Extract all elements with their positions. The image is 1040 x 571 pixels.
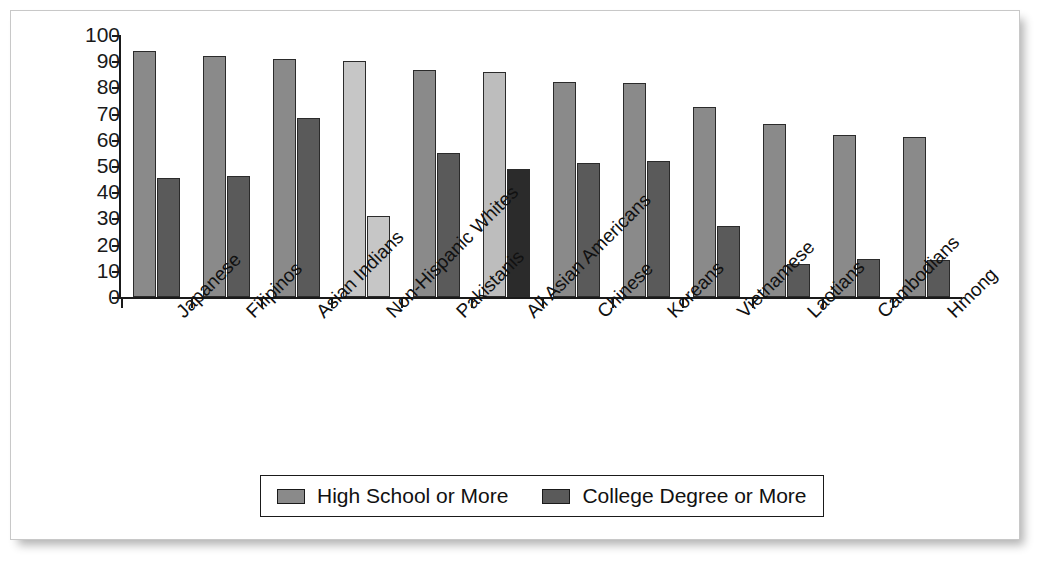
y-axis-tick-mark xyxy=(112,87,120,89)
x-axis-category-label: Vietnamese xyxy=(733,307,749,323)
y-axis-tick-mark xyxy=(112,297,120,299)
x-axis-tick-mark xyxy=(822,299,824,308)
x-axis-tick-mark xyxy=(542,299,544,308)
x-axis-tick-mark xyxy=(612,299,614,308)
y-axis-tick-mark xyxy=(112,140,120,142)
legend-item-college[interactable]: College Degree or More xyxy=(542,484,806,508)
x-axis-category-label: All Asian Americans xyxy=(522,307,538,323)
x-axis-category-label: Hmong xyxy=(943,307,959,323)
bar-high-school-japanese xyxy=(133,51,156,297)
chart-plot-area: 1009080706050403020100 JapaneseFilipinos… xyxy=(11,11,1021,541)
chart-legend: High School or MoreCollege Degree or Mor… xyxy=(260,475,824,517)
x-axis-category-label: Cambodians xyxy=(873,307,889,323)
x-axis-category-label: Pakistanis xyxy=(452,307,468,323)
legend-swatch-icon xyxy=(277,489,305,504)
y-axis-tick-mark xyxy=(112,166,120,168)
y-axis-tick-mark xyxy=(112,245,120,247)
x-axis-tick-mark xyxy=(892,299,894,308)
x-axis-category-label: Non-Hispanic Whites xyxy=(382,307,398,323)
x-axis-category-label: Asian Indians xyxy=(312,307,328,323)
bar-college-japanese xyxy=(157,178,180,297)
bar-college-vietnamese xyxy=(717,226,740,297)
x-axis-tick-mark xyxy=(752,299,754,308)
y-axis-tick-mark xyxy=(112,35,120,37)
legend-label: College Degree or More xyxy=(582,484,806,508)
legend-item-high-school[interactable]: High School or More xyxy=(277,484,508,508)
bar-series-container xyxy=(121,35,962,297)
y-axis-tick-mark xyxy=(112,114,120,116)
legend-swatch-icon xyxy=(542,489,570,504)
x-axis-category-labels: JapaneseFilipinosAsian IndiansNon-Hispan… xyxy=(121,307,962,427)
x-axis-category-label: Japanese xyxy=(172,307,188,323)
x-axis-tick-mark xyxy=(471,299,473,308)
x-axis-category-label: Filipinos xyxy=(242,307,258,323)
x-axis-tick-mark xyxy=(401,299,403,308)
y-axis-tick-mark xyxy=(112,271,120,273)
x-axis-tick-mark xyxy=(682,299,684,308)
bar-college-filipinos xyxy=(227,176,250,297)
x-axis-tick-mark xyxy=(191,299,193,308)
y-axis-tick-mark xyxy=(112,218,120,220)
y-axis-tick-mark xyxy=(112,192,120,194)
chart-figure: 1009080706050403020100 JapaneseFilipinos… xyxy=(10,10,1020,540)
x-axis-category-label: Chinese xyxy=(593,307,609,323)
x-axis-category-label: Koreans xyxy=(663,307,679,323)
y-axis-tick-mark xyxy=(112,61,120,63)
x-axis-tick-mark xyxy=(261,299,263,308)
x-axis-tick-mark xyxy=(331,299,333,308)
x-axis-category-label: Laotians xyxy=(803,307,819,323)
legend-label: High School or More xyxy=(317,484,508,508)
x-axis-tick-mark xyxy=(121,299,123,308)
